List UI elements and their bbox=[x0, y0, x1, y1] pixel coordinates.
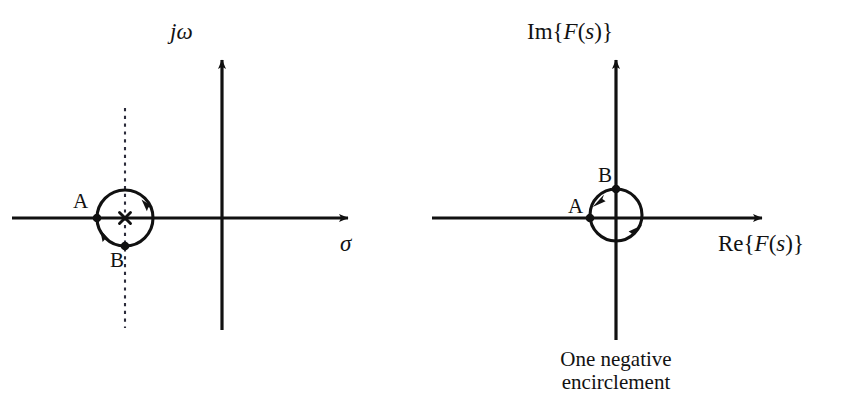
right-point-A-dot bbox=[586, 214, 595, 223]
left-point-A-label: A bbox=[73, 190, 88, 213]
right-point-B-dot bbox=[612, 185, 621, 194]
right-panel-axes bbox=[432, 60, 762, 340]
im-axis-label-close: )} bbox=[594, 19, 613, 44]
re-axis-label-close: )} bbox=[785, 231, 804, 256]
im-axis-label-prefix: Im{ bbox=[527, 19, 564, 44]
im-axis-label-arg: s bbox=[585, 19, 594, 44]
jomega-axis-label: jω bbox=[170, 20, 193, 45]
right-point-B-label: B bbox=[598, 164, 612, 187]
figure-vector-layer bbox=[0, 0, 857, 411]
sigma-axis-label: σ bbox=[340, 232, 351, 257]
re-axis-label-func: F bbox=[755, 231, 769, 256]
im-axis-label: Im{F(s)} bbox=[527, 20, 613, 45]
re-axis-label: Re{F(s)} bbox=[718, 232, 804, 257]
right-point-A-label: A bbox=[568, 195, 583, 218]
re-axis-label-arg: s bbox=[776, 231, 785, 256]
left-point-A-dot bbox=[93, 214, 102, 223]
encirclement-caption-line-2: encirclement bbox=[516, 371, 716, 394]
nyquist-encirclement-figure: jω σ A B Im{F(s)} Re{F(s)} A B One negat… bbox=[0, 0, 857, 411]
re-axis-label-prefix: Re{ bbox=[718, 231, 755, 256]
left-panel-axes bbox=[12, 60, 348, 330]
encirclement-caption-line-1: One negative bbox=[516, 348, 716, 371]
left-point-B-label: B bbox=[110, 249, 124, 272]
im-axis-label-func: F bbox=[564, 19, 578, 44]
